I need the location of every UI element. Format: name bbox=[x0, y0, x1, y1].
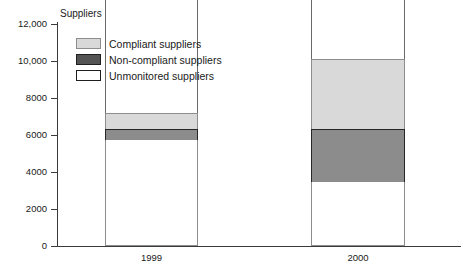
y-tick-mark-12000 bbox=[51, 24, 58, 25]
y-tick-label-2000: 2000 bbox=[26, 204, 47, 214]
x-tick-label-1999: 1999 bbox=[105, 252, 198, 263]
legend-label-non-compliant: Non-compliant suppliers bbox=[109, 54, 222, 66]
bar-segment-1999-unmonitored bbox=[105, 140, 198, 246]
y-axis-title: Suppliers bbox=[60, 8, 102, 19]
legend-item-compliant: Compliant suppliers bbox=[76, 36, 222, 51]
y-tick-mark-2000 bbox=[51, 209, 58, 210]
legend-label-compliant: Compliant suppliers bbox=[109, 38, 201, 50]
bar-segment-2000-compliant bbox=[311, 59, 405, 130]
chart-legend: Compliant suppliers Non-compliant suppli… bbox=[76, 36, 222, 84]
bar-segment-2000-non-compliant bbox=[311, 129, 405, 183]
y-tick-mark-4000 bbox=[51, 172, 58, 173]
y-tick-label-6000: 6000 bbox=[26, 130, 47, 140]
y-tick-mark-10000 bbox=[51, 61, 58, 62]
legend-swatch-compliant-icon bbox=[76, 38, 101, 49]
y-tick-mark-8000 bbox=[51, 98, 58, 99]
legend-swatch-unmonitored-icon bbox=[76, 70, 101, 81]
x-tick-label-2000: 2000 bbox=[311, 252, 405, 263]
y-tick-label-10000: 10,000 bbox=[18, 56, 47, 66]
legend-item-non-compliant: Non-compliant suppliers bbox=[76, 52, 222, 67]
legend-label-unmonitored: Unmonitored suppliers bbox=[109, 70, 214, 82]
y-tick-mark-0 bbox=[51, 246, 58, 247]
y-tick-label-4000: 4000 bbox=[26, 167, 47, 177]
bar-segment-2000-unmonitored bbox=[311, 182, 405, 246]
y-tick-label-8000: 8000 bbox=[26, 93, 47, 103]
legend-swatch-non-compliant-icon bbox=[76, 54, 101, 65]
bar-1999 bbox=[105, 113, 198, 246]
stacked-bar-chart: Suppliers 12,000 10,000 8000 6000 4000 2… bbox=[0, 0, 472, 274]
y-tick-label-0: 0 bbox=[42, 241, 47, 251]
bar-segment-1999-compliant bbox=[105, 113, 198, 130]
y-tick-mark-6000 bbox=[51, 135, 58, 136]
y-tick-label-12000: 12,000 bbox=[18, 19, 47, 29]
bar-2000 bbox=[311, 59, 405, 246]
x-axis-line bbox=[57, 246, 461, 247]
legend-item-unmonitored: Unmonitored suppliers bbox=[76, 68, 222, 83]
